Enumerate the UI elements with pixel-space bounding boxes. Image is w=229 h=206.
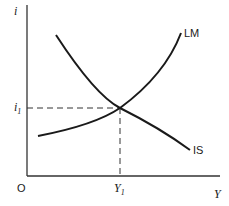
is-curve bbox=[56, 35, 190, 150]
x-axis-label: Y bbox=[214, 188, 221, 200]
lm-curve bbox=[38, 33, 181, 136]
lm-label: LM bbox=[184, 28, 199, 39]
is-label: IS bbox=[193, 145, 203, 156]
y-axis-label: i bbox=[14, 5, 17, 17]
y1-label: Y1 bbox=[114, 182, 125, 197]
origin-label: O bbox=[17, 183, 26, 194]
i1-label: i1 bbox=[14, 101, 21, 116]
